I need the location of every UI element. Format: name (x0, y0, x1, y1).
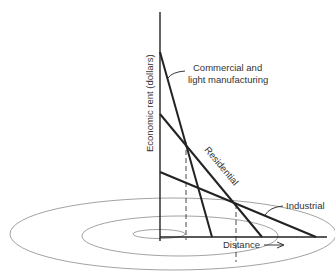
distance-arrow-icon (264, 242, 284, 248)
commercial-label-2: light manufacturing (188, 74, 268, 85)
residential-label: Residential (202, 144, 241, 187)
industrial-label: Industrial (286, 200, 325, 211)
bid-rent-diagram: Economic rent (dollars) Commercial and l… (0, 0, 335, 275)
y-axis-label: Economic rent (dollars) (144, 54, 155, 152)
industrial-leader (265, 206, 283, 215)
commercial-label-1: Commercial and (193, 62, 262, 73)
residential-line (160, 114, 262, 237)
x-axis-label: Distance (223, 239, 260, 250)
commercial-leader (168, 71, 185, 78)
